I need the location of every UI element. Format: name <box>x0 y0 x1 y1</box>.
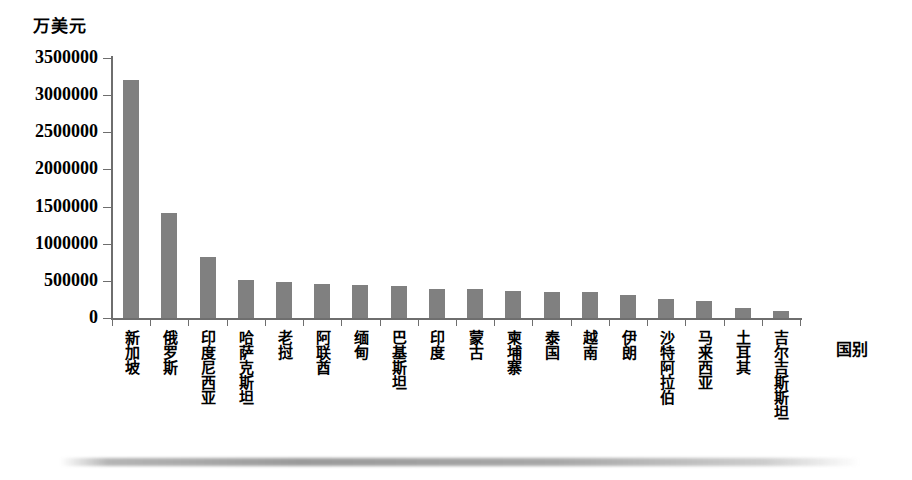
bar <box>505 291 521 318</box>
bar <box>238 280 254 318</box>
bar-chart: 万美元 350000030000002500000200000015000001… <box>0 0 912 480</box>
x-axis-category-label: 缅甸 <box>352 330 367 360</box>
bar <box>582 292 598 318</box>
y-axis-tick-mark <box>103 58 111 59</box>
x-axis-tick-mark <box>380 318 381 326</box>
y-axis-tick-label: 500000 <box>44 270 98 291</box>
y-axis-tick-label: 3500000 <box>35 47 98 68</box>
x-axis-category-label: 沙特阿拉伯 <box>658 330 673 405</box>
x-axis-tick-mark <box>456 318 457 326</box>
bar <box>467 289 483 318</box>
bar <box>658 299 674 318</box>
x-axis-tick-mark <box>724 318 725 326</box>
x-axis-tick-mark <box>265 318 266 326</box>
y-axis-tick-mark <box>103 95 111 96</box>
x-axis-category-label: 印度尼西亚 <box>200 330 215 405</box>
x-axis-category-label: 印度 <box>429 330 444 360</box>
x-axis-category-label: 俄罗斯 <box>161 330 176 375</box>
x-axis-tick-mark <box>494 318 495 326</box>
x-axis-category-label: 伊朗 <box>620 330 635 360</box>
y-axis-tick-label: 0 <box>89 307 98 328</box>
x-axis-tick-mark <box>303 318 304 326</box>
x-axis-tick-mark <box>188 318 189 326</box>
x-axis-category-label: 越南 <box>582 330 597 360</box>
x-axis-tick-mark <box>418 318 419 326</box>
x-axis-category-label: 泰国 <box>544 330 559 360</box>
x-axis-tick-mark <box>341 318 342 326</box>
x-axis-tick-mark <box>112 318 113 326</box>
y-axis-line <box>111 56 113 320</box>
x-axis-category-label: 吉尔吉斯斯坦 <box>773 330 788 420</box>
y-axis-tick-label: 3000000 <box>35 84 98 105</box>
bar <box>773 311 789 318</box>
x-axis-category-label: 马来西亚 <box>696 330 711 390</box>
bar <box>276 282 292 318</box>
x-axis-tick-mark <box>609 318 610 326</box>
y-axis-tick-label: 2000000 <box>35 158 98 179</box>
y-axis-tick-label: 2500000 <box>35 121 98 142</box>
x-axis-tick-mark <box>227 318 228 326</box>
y-axis-tick-mark <box>103 281 111 282</box>
x-axis-tick-mark <box>150 318 151 326</box>
x-axis-tick-mark <box>647 318 648 326</box>
bar <box>429 289 445 318</box>
x-axis-tick-mark <box>800 318 801 326</box>
bar <box>735 308 751 318</box>
bar <box>161 213 177 318</box>
x-axis-category-label: 蒙古 <box>467 330 482 360</box>
bar <box>352 285 368 318</box>
y-axis-tick-label: 1000000 <box>35 233 98 254</box>
x-axis-tick-mark <box>685 318 686 326</box>
y-axis-tick-mark <box>103 244 111 245</box>
bar <box>314 284 330 318</box>
x-axis-category-label: 老挝 <box>276 330 291 360</box>
x-axis-category-label: 巴基斯坦 <box>391 330 406 390</box>
bar <box>200 257 216 318</box>
x-axis-tick-mark <box>571 318 572 326</box>
bar <box>544 292 560 318</box>
y-axis-tick-mark <box>103 207 111 208</box>
scan-artifact <box>60 458 860 466</box>
y-axis-tick-mark <box>103 318 111 319</box>
y-axis-tick-mark <box>103 132 111 133</box>
x-axis-category-label: 阿联酋 <box>314 330 329 375</box>
bar <box>620 295 636 318</box>
y-axis-unit-label: 万美元 <box>33 12 87 37</box>
bar <box>391 286 407 318</box>
x-axis-category-label: 哈萨克斯坦 <box>238 330 253 405</box>
x-axis-tick-mark <box>762 318 763 326</box>
x-axis-category-label: 柬埔寨 <box>505 330 520 375</box>
x-axis-title: 国别 <box>836 336 868 360</box>
x-axis-category-label: 土耳其 <box>735 330 750 375</box>
x-axis-category-label: 新加坡 <box>123 330 138 375</box>
y-axis-tick-label: 1500000 <box>35 196 98 217</box>
y-axis-tick-mark <box>103 169 111 170</box>
bar <box>696 301 712 318</box>
bar <box>123 80 139 318</box>
x-axis-tick-mark <box>532 318 533 326</box>
